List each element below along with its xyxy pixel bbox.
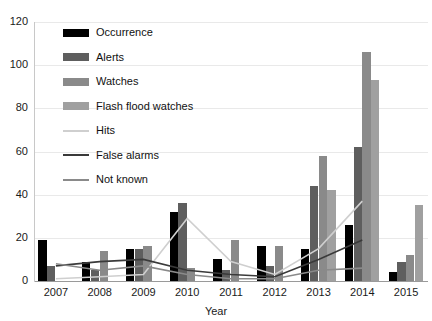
legend-label: Watches bbox=[96, 76, 138, 87]
legend-item: Watches bbox=[63, 76, 138, 87]
legend-label: Hits bbox=[96, 125, 115, 136]
legend-item: Alerts bbox=[63, 52, 124, 63]
x-axis-tick-label: 2011 bbox=[209, 287, 253, 298]
x-axis-tick-label: 2015 bbox=[384, 287, 428, 298]
legend-item: Occurrence bbox=[63, 27, 153, 38]
line-series bbox=[56, 201, 362, 279]
legend-swatch-icon bbox=[63, 102, 89, 110]
legend-label: Alerts bbox=[96, 52, 124, 63]
legend-item: Hits bbox=[63, 125, 115, 136]
legend-swatch-icon bbox=[63, 53, 89, 61]
legend-label: False alarms bbox=[96, 150, 159, 161]
legend-line-icon bbox=[63, 179, 89, 181]
chart-figure: 020406080100120 200720082009201020112012… bbox=[0, 0, 432, 321]
x-axis-tick-label: 2007 bbox=[34, 287, 78, 298]
legend-line-icon bbox=[63, 130, 89, 132]
legend-swatch-icon bbox=[63, 78, 89, 86]
line-series-layer bbox=[0, 0, 432, 321]
x-axis-tick-label: 2013 bbox=[297, 287, 341, 298]
legend-item: Not known bbox=[63, 174, 148, 185]
legend-label: Not known bbox=[96, 174, 148, 185]
x-axis-tick-label: 2008 bbox=[78, 287, 122, 298]
x-axis-tick-label: 2009 bbox=[122, 287, 166, 298]
x-axis-tick-label: 2010 bbox=[165, 287, 209, 298]
x-axis-title: Year bbox=[0, 305, 432, 317]
legend-line-icon bbox=[63, 154, 89, 156]
legend-swatch-icon bbox=[63, 29, 89, 37]
legend-label: Occurrence bbox=[96, 27, 153, 38]
legend-item: False alarms bbox=[63, 150, 159, 161]
x-axis-tick-label: 2012 bbox=[253, 287, 297, 298]
legend-label: Flash flood watches bbox=[96, 101, 193, 112]
legend-item: Flash flood watches bbox=[63, 101, 193, 112]
x-axis-tick-label: 2014 bbox=[340, 287, 384, 298]
